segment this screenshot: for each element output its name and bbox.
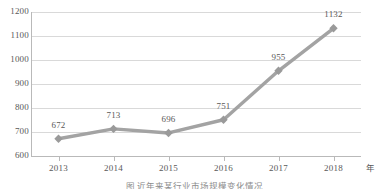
data-point-label: 696 [149, 114, 189, 124]
x-axis-tick [224, 157, 225, 161]
data-point-marker [109, 125, 117, 133]
data-point-label: 1132 [314, 9, 354, 19]
x-axis-tick [114, 157, 115, 161]
line-chart: 600700800900100011001200 201320142015201… [0, 0, 389, 189]
x-axis-tick [334, 157, 335, 161]
data-point-label: 713 [94, 110, 134, 120]
x-axis-tick [59, 157, 60, 161]
chart-caption: 图 近年来某行业市场规模变化情况 [0, 181, 389, 189]
x-axis-tick [279, 157, 280, 161]
data-point-marker [54, 135, 62, 143]
data-point-label: 751 [204, 101, 244, 111]
data-point-label: 672 [39, 120, 79, 130]
data-point-marker [164, 129, 172, 137]
data-point-label: 955 [259, 52, 299, 62]
x-axis-tick [169, 157, 170, 161]
